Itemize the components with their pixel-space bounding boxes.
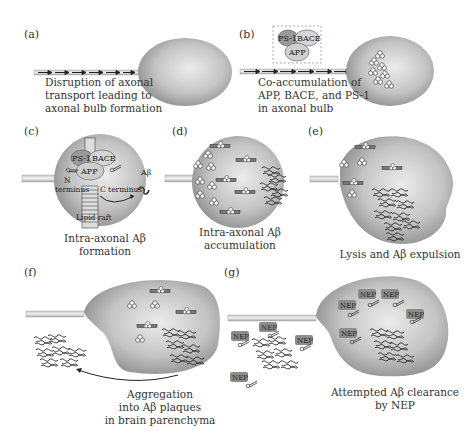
panel-label-g: (g) [224, 266, 240, 279]
panel-c-diagram: PS-1 BACE APP N terminus C terminus Aβ L… [22, 134, 152, 228]
caption-e: Lysis and Aβ expulsion [335, 248, 465, 261]
caption-b-line: in axonal bulb [258, 102, 370, 115]
caption-a-line: axonal bulb formation [45, 102, 162, 115]
caption-d-line: Intra-axonal Aβ [195, 226, 285, 239]
nep-label: NEP [408, 311, 424, 319]
panel-label-b: (b) [239, 28, 255, 41]
panel-label-f: (f) [24, 266, 37, 279]
caption-e-line: Lysis and Aβ expulsion [335, 248, 465, 261]
figure-canvas: PS-1 BACE APP PS-1 BACE APP N terminus [0, 0, 467, 442]
inset-app-label: APP [288, 48, 306, 57]
panel-d-diagram [165, 136, 288, 228]
panel-e-diagram [310, 136, 453, 244]
c-ps1-label: PS-1 [72, 154, 91, 163]
nep-label: NEP [340, 302, 356, 310]
caption-f: Aggregation into Aβ plaques in brain par… [100, 388, 220, 427]
caption-c: Intra-axonal Aβ formation [40, 232, 170, 258]
inset-bace-label: BACE [297, 34, 321, 43]
nep-label: NEP [233, 333, 249, 341]
caption-g: Attempted Aβ clearance by NEP [330, 386, 460, 412]
caption-b-line: Co-accumulation of [258, 76, 370, 89]
c-bace-label: BACE [92, 154, 116, 163]
caption-a: Disruption of axonal transport leading t… [45, 76, 162, 115]
panel-label-e: (e) [308, 125, 323, 138]
nep-label: NEP [341, 330, 357, 338]
panel-f-diagram [26, 280, 220, 381]
nep-label: NEP [383, 291, 399, 299]
nep-label: NEP [360, 291, 376, 299]
panel-g-diagram: NEP NEP NEP NEP NEP NEP NEP NEP NEP [228, 276, 448, 387]
caption-d-line: accumulation [195, 239, 285, 252]
n-terminus-label: N [64, 176, 71, 185]
caption-b: Co-accumulation of APP, BACE, and PS-1 i… [258, 76, 370, 115]
caption-f-line: in brain parenchyma [100, 414, 220, 427]
panel-label-d: (d) [172, 125, 188, 138]
nep-label: NEP [261, 324, 277, 332]
nep-label: NEP [232, 374, 248, 382]
panel-label-a: (a) [24, 28, 39, 41]
caption-a-line: Disruption of axonal [45, 76, 162, 89]
c-terminus-label: C terminus [100, 185, 142, 194]
caption-d: Intra-axonal Aβ accumulation [195, 226, 285, 252]
caption-b-line: APP, BACE, and PS-1 [258, 89, 370, 102]
caption-a-line: transport leading to [45, 89, 162, 102]
caption-f-line: into Aβ plaques [100, 401, 220, 414]
caption-f-line: Aggregation [100, 388, 220, 401]
caption-g-line: by NEP [330, 399, 460, 412]
inset-ps1-label: PS-1 [278, 34, 297, 43]
lipid-raft-label: Lipid raft [76, 213, 112, 222]
n-terminus-label-2: terminus [55, 185, 89, 194]
panel-label-c: (c) [24, 125, 39, 138]
abeta-label: Aβ [140, 168, 152, 177]
caption-c-line: Intra-axonal Aβ formation [40, 232, 170, 258]
c-app-label: APP [80, 167, 98, 176]
caption-g-line: Attempted Aβ clearance [330, 386, 460, 399]
